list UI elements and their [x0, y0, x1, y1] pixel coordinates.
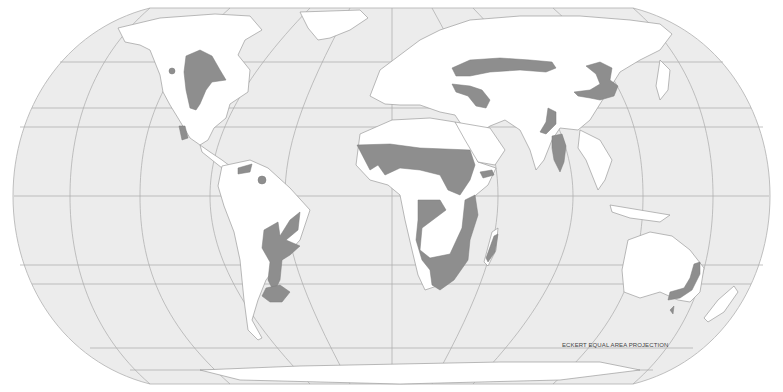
world-map: [0, 0, 783, 392]
projection-label: ECKERT EQUAL AREA PROJECTION: [562, 342, 668, 348]
region-western-us-spot: [169, 68, 175, 74]
region-guiana-spot: [258, 176, 266, 184]
